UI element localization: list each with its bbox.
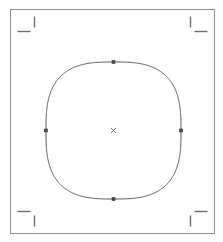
canvas-root: [0, 0, 223, 242]
node-bottom[interactable]: [112, 198, 115, 201]
node-left[interactable]: [45, 129, 48, 132]
node-right[interactable]: [180, 129, 183, 132]
canvas-background: [0, 0, 223, 242]
node-top[interactable]: [112, 61, 115, 64]
drawing-canvas[interactable]: [0, 0, 223, 242]
